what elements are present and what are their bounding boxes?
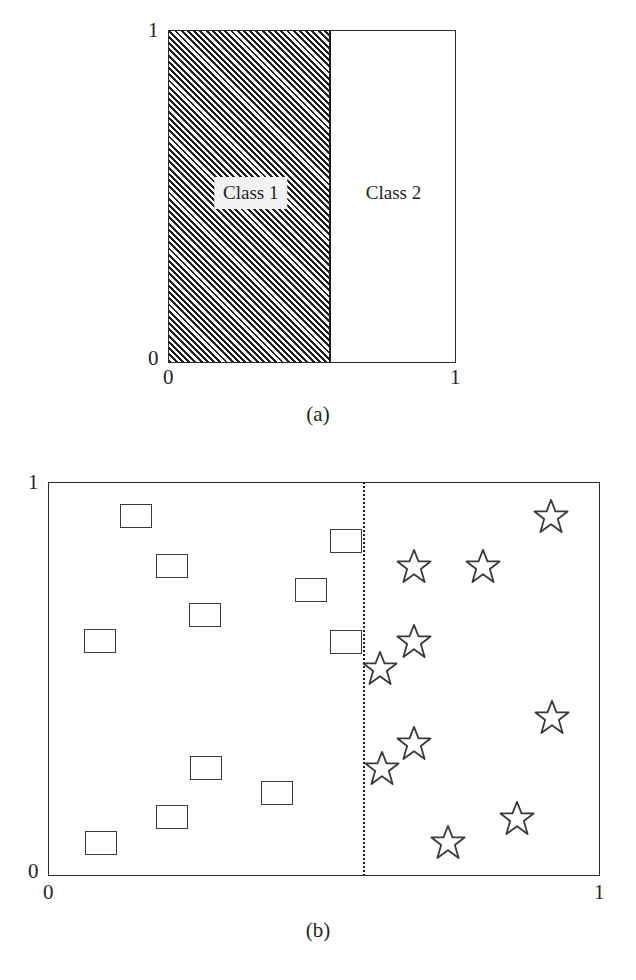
square-data-point [84,629,116,653]
square-data-point [156,554,188,578]
square-data-point [85,831,117,855]
star-data-point [465,549,501,584]
star-data-point [534,699,570,734]
panel-a-caption: (a) [0,402,636,427]
star-data-point [362,651,398,686]
panel-b-caption: (b) [0,918,636,943]
panel-a: Class 1 Class 2 1 0 0 1 (a) [0,0,636,440]
square-data-point [156,805,188,829]
panel-b-y-min-label: 0 [28,861,39,882]
panel-a-x-min-label: 0 [163,367,174,388]
square-data-point [330,529,362,553]
panel-a-y-min-label: 0 [148,348,159,369]
star-data-point [396,725,432,760]
plot-frame-b [48,482,600,876]
plot-frame-a: Class 1 Class 2 [168,30,456,363]
star-data-point [396,549,432,584]
square-data-point [330,630,362,654]
panel-b-x-min-label: 0 [43,882,54,903]
square-data-point [120,504,152,528]
class-2-label: Class 2 [357,177,430,209]
panel-b-x-max-label: 1 [594,882,605,903]
square-data-point [261,781,293,805]
star-data-point [533,498,569,533]
star-data-point [364,750,400,785]
panel-b: 1 0 0 1 (b) [0,440,636,980]
class-1-label: Class 1 [214,177,287,209]
panel-a-x-max-label: 1 [450,367,461,388]
panel-b-y-max-label: 1 [28,472,39,493]
star-data-point [396,624,432,659]
panel-a-y-max-label: 1 [148,20,159,41]
square-data-point [295,578,327,602]
star-data-point [499,801,535,836]
square-data-point [190,756,222,780]
star-data-point [430,825,466,860]
square-data-point [189,603,221,627]
